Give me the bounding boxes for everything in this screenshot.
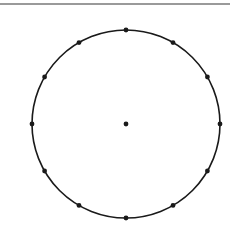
- circumference-point: [77, 40, 82, 45]
- circumference-point: [124, 28, 129, 33]
- circumference-point: [218, 122, 223, 127]
- center-point: [124, 122, 129, 127]
- circle-diagram: [0, 0, 230, 238]
- circumference-point: [171, 203, 176, 208]
- circumference-point: [205, 169, 210, 174]
- circumference-point: [205, 75, 210, 80]
- circumference-point: [124, 216, 129, 221]
- circumference-point: [77, 203, 82, 208]
- circumference-point: [30, 122, 35, 127]
- circumference-point: [42, 169, 47, 174]
- circumference-point: [171, 40, 176, 45]
- circumference-point: [42, 75, 47, 80]
